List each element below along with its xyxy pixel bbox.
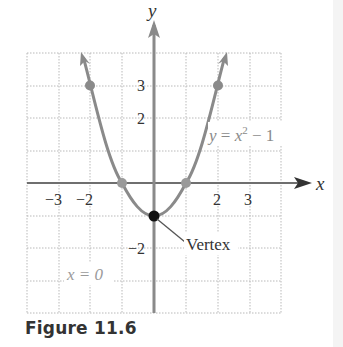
vertex-label: Vertex [186, 235, 231, 254]
figure-caption: Figure 11.6 [25, 318, 137, 338]
point-2-3 [213, 81, 223, 91]
x-tick-neg2: −2 [76, 191, 93, 208]
point-neg2-3 [85, 81, 95, 91]
y-tick-neg2: −2 [128, 240, 145, 257]
point-1-0 [181, 178, 191, 188]
parabola-graph: y x −3 −2 2 3 3 2 −2 y = x2 − 1 Vertex x… [0, 0, 343, 347]
y-tick-3: 3 [137, 77, 145, 94]
axis-of-symmetry-label: x = 0 [66, 265, 104, 284]
vertex-pointer [157, 219, 185, 242]
x-axis-label: x [315, 173, 325, 194]
x-tick-2: 2 [213, 191, 221, 208]
x-axis [27, 177, 312, 189]
figure: y x −3 −2 2 3 3 2 −2 y = x2 − 1 Vertex x… [0, 0, 343, 347]
y-tick-2: 2 [137, 110, 145, 127]
x-tick-3: 3 [244, 191, 252, 208]
y-axis-label: y [146, 0, 157, 21]
y-axis [148, 20, 160, 313]
point-neg1-0 [117, 178, 127, 188]
page-edge [333, 0, 343, 347]
x-tick-neg3: −3 [45, 191, 62, 208]
equation-label: y = x2 − 1 [207, 124, 274, 145]
